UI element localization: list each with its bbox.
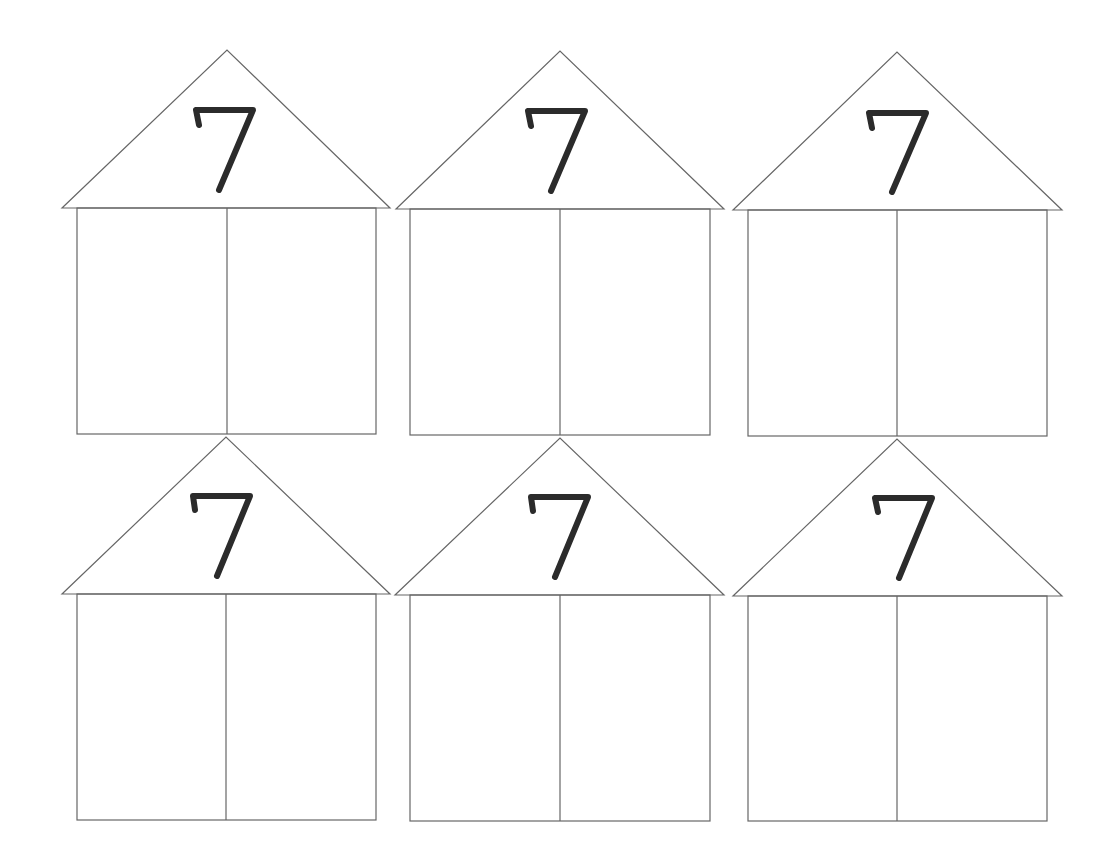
right-box[interactable]	[228, 209, 375, 433]
number-house: 7	[395, 438, 725, 824]
right-box[interactable]	[561, 210, 709, 434]
right-box[interactable]	[227, 595, 375, 819]
left-box[interactable]	[749, 597, 896, 820]
left-box[interactable]	[78, 595, 225, 819]
digit-seven-icon	[193, 496, 250, 576]
right-box[interactable]	[561, 596, 709, 820]
number-house: 7	[733, 439, 1063, 825]
number-house: 7	[396, 51, 726, 437]
digit-seven-icon	[531, 497, 588, 577]
right-box[interactable]	[898, 597, 1046, 820]
left-box[interactable]	[411, 210, 559, 434]
digit-seven-icon	[528, 111, 585, 191]
left-box[interactable]	[411, 596, 559, 820]
number-house: 7	[62, 437, 392, 823]
number-house: 7	[62, 50, 392, 436]
right-box[interactable]	[898, 211, 1046, 435]
digit-seven-icon	[875, 498, 932, 578]
left-box[interactable]	[78, 209, 226, 433]
left-box[interactable]	[749, 211, 896, 435]
digit-seven-icon	[869, 113, 926, 192]
digit-seven-icon	[196, 110, 253, 190]
number-house: 7	[733, 52, 1063, 438]
